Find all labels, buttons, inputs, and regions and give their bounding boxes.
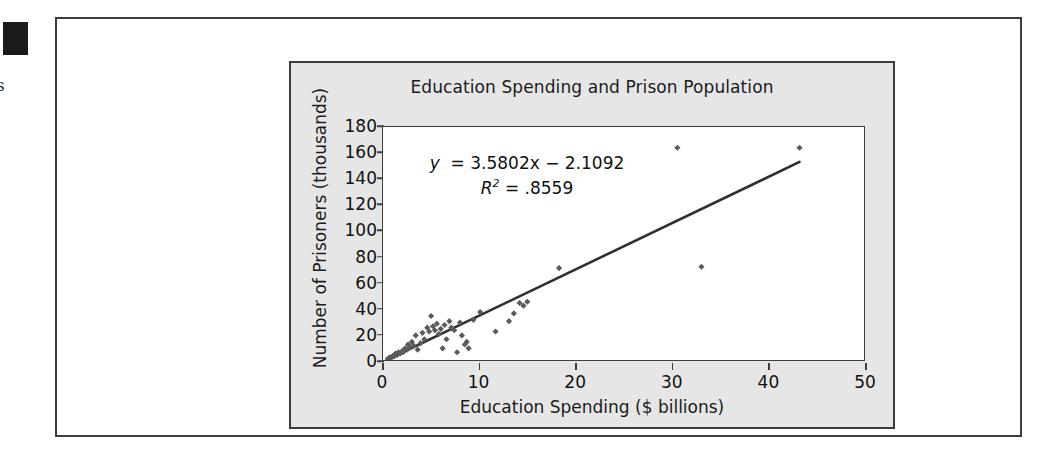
data-point [428,313,434,319]
r-squared-line: R2 = .8559 [397,176,657,201]
equation-rhs-value: = 3.5802x − 2.1092 [451,153,625,173]
equation-rhs-text: = 3.5802x − 2.1092 [451,153,625,173]
chart-title: Education Spending and Prison Population [291,77,893,97]
data-point [506,318,512,324]
x-tick-mark [768,363,770,370]
x-tick-mark [575,363,577,370]
data-point [413,332,419,338]
x-tick-label: 40 [746,372,790,392]
x-tick-mark [672,363,674,370]
data-point [492,328,498,334]
data-point [419,330,425,336]
x-tick-label: 50 [843,372,887,392]
figure-frame: Education Spending and Prison Population… [55,17,1022,437]
x-tick-label: 0 [360,372,404,392]
r-squared-value: = .8559 [505,178,573,198]
r-squared-symbol: R [481,178,493,198]
data-point [466,345,472,351]
r-squared-exponent: 2 [493,177,500,190]
data-point [446,318,452,324]
data-point [441,322,447,328]
x-tick-mark [382,363,384,370]
data-point [674,145,680,151]
regression-annotation: y = 3.5802x − 2.1092 R2 = .8559 [397,151,657,200]
data-point [459,332,465,338]
x-tick-label: 10 [457,372,501,392]
data-point [443,336,449,342]
data-point [524,299,530,305]
x-tick-label: 30 [650,372,694,392]
regression-equation: y = 3.5802x − 2.1092 [397,151,657,176]
x-tick-label: 20 [553,372,597,392]
data-point [698,264,704,270]
data-point [796,145,802,151]
x-tick-mark [865,363,867,370]
chart-panel: Education Spending and Prison Population… [289,61,895,429]
data-point [454,349,460,355]
data-point [556,265,562,271]
page-margin-glyph: s [0,74,14,96]
data-point [438,326,444,332]
data-point [511,310,517,316]
equation-lhs: y [430,153,440,173]
page-margin-tab [3,22,28,55]
x-axis-ticks: 01020304050 [382,363,865,397]
data-point [440,345,446,351]
x-axis-title: Education Spending ($ billions) [291,397,893,417]
x-tick-mark [479,363,481,370]
y-axis-tick-marks [291,126,386,361]
